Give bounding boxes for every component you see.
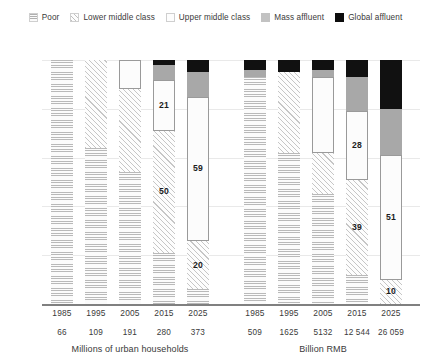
stacked-bar bbox=[51, 60, 73, 304]
bar-segment-value: 51 bbox=[386, 213, 396, 222]
stacked-bar bbox=[244, 60, 266, 304]
bar-segment-upper bbox=[119, 60, 141, 89]
stacked-bar: 2150 bbox=[153, 60, 175, 304]
bar-segment-global bbox=[244, 60, 266, 70]
legend-item-label: Upper middle class bbox=[179, 13, 250, 22]
stacked-bar bbox=[119, 60, 141, 304]
legend-item-label: Mass affluent bbox=[274, 13, 324, 22]
bar-segment-global bbox=[380, 60, 402, 109]
bar-segment-mass bbox=[346, 77, 368, 111]
bar-segment-global bbox=[187, 60, 209, 72]
upper-swatch-icon bbox=[166, 13, 175, 22]
bar-segment-value: 39 bbox=[352, 223, 362, 232]
bar-segment-mass bbox=[312, 70, 334, 77]
plot-area: Percentage of total 2150592028395110 bbox=[42, 60, 420, 304]
legend-item-label: Lower middle class bbox=[83, 13, 154, 22]
bar-segment-lower: 39 bbox=[346, 180, 368, 275]
lower-swatch-icon bbox=[70, 13, 79, 22]
bar-segment-poor bbox=[312, 194, 334, 304]
bar-segment-poor bbox=[85, 148, 107, 304]
bar-segment-lower bbox=[312, 153, 334, 194]
x-axis-line bbox=[42, 304, 420, 306]
stacked-bar: 2839 bbox=[346, 60, 368, 304]
legend-item-label: Global affluent bbox=[348, 13, 402, 22]
stacked-bar: 5110 bbox=[380, 60, 402, 304]
bar-segment-poor bbox=[187, 289, 209, 304]
stacked-bar bbox=[312, 60, 334, 304]
bar-segment-upper: 21 bbox=[153, 80, 175, 131]
bar-segment-lower bbox=[278, 72, 300, 153]
bar-segment-lower: 20 bbox=[187, 241, 209, 290]
legend-item-upper: Upper middle class bbox=[166, 13, 250, 22]
poor-swatch-icon bbox=[29, 13, 38, 22]
bar-segment-poor bbox=[346, 275, 368, 304]
legend-item-lower: Lower middle class bbox=[70, 13, 154, 22]
bar-segment-lower bbox=[85, 60, 107, 148]
global-swatch-icon bbox=[335, 13, 344, 22]
bar-segment-poor bbox=[278, 153, 300, 304]
stacked-bar bbox=[85, 60, 107, 304]
bar-segment-value: 10 bbox=[386, 287, 396, 296]
bar-segment-value: 59 bbox=[193, 164, 203, 173]
panel-caption: Billion RMB bbox=[233, 344, 413, 354]
panel-caption: Millions of urban households bbox=[40, 344, 220, 354]
bar-segment-global bbox=[346, 60, 368, 77]
chart-legend: PoorLower middle classUpper middle class… bbox=[0, 13, 431, 22]
bar-segment-upper: 59 bbox=[187, 97, 209, 241]
legend-item-mass: Mass affluent bbox=[261, 13, 324, 22]
bar-segment-mass bbox=[244, 70, 266, 77]
bar-segment-lower: 50 bbox=[153, 131, 175, 253]
bar-segment-poor bbox=[119, 172, 141, 304]
bar-segment-poor bbox=[244, 77, 266, 304]
stacked-bar bbox=[278, 60, 300, 304]
x-axis-tick-2025: 2025 bbox=[178, 308, 218, 318]
bar-segment-lower bbox=[119, 89, 141, 172]
legend-item-global: Global affluent bbox=[335, 13, 402, 22]
stacked-bar: 5920 bbox=[187, 60, 209, 304]
bar-segment-mass bbox=[187, 72, 209, 96]
value-row-cell: 26 059 bbox=[369, 328, 413, 337]
bar-segment-value: 28 bbox=[352, 141, 362, 150]
bar-segment-upper: 51 bbox=[380, 155, 402, 279]
bar-segment-poor bbox=[153, 253, 175, 304]
bar-segment-poor bbox=[51, 60, 73, 304]
bar-segment-upper: 28 bbox=[346, 111, 368, 179]
bar-segment-value: 20 bbox=[193, 261, 203, 270]
bar-segment-global bbox=[278, 60, 300, 72]
bar-segment-upper bbox=[312, 77, 334, 153]
legend-item-label: Poor bbox=[42, 13, 60, 22]
value-row-cell: 373 bbox=[176, 328, 220, 337]
legend-item-poor: Poor bbox=[29, 13, 60, 22]
bar-segment-value: 21 bbox=[159, 101, 169, 110]
bar-segment-lower: 10 bbox=[380, 280, 402, 304]
x-axis-tick-2025: 2025 bbox=[371, 308, 411, 318]
bar-segment-mass bbox=[380, 109, 402, 155]
bar-segment-global bbox=[312, 60, 334, 70]
bar-segment-value: 50 bbox=[159, 187, 169, 196]
mass-swatch-icon bbox=[261, 13, 270, 22]
bar-segment-mass bbox=[153, 65, 175, 80]
